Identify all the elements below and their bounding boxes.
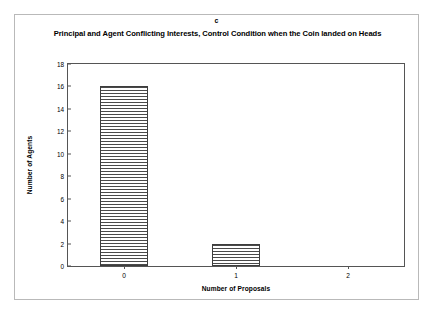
bar-0 (100, 86, 148, 266)
x-tick-mark (236, 266, 237, 269)
y-tick-label: 2 (60, 240, 64, 247)
y-tick-label: 0 (60, 263, 64, 270)
y-tick-label: 14 (57, 105, 64, 112)
bar-slot (68, 64, 180, 266)
y-tick-label: 4 (60, 218, 64, 225)
x-axis-title: Number of Proposals (67, 285, 405, 292)
x-tick-label: 2 (346, 272, 350, 279)
y-tick-label: 8 (60, 173, 64, 180)
y-tick-label: 18 (57, 61, 64, 68)
y-tick-label: 10 (57, 150, 64, 157)
plot-area: 024681012141618012 (67, 63, 405, 267)
y-tick-label: 6 (60, 195, 64, 202)
x-tick-label: 0 (122, 272, 126, 279)
bar-1 (212, 244, 260, 266)
bar-slot (180, 64, 292, 266)
y-tick-label: 12 (57, 128, 64, 135)
y-tick-label: 16 (57, 83, 64, 90)
panel-letter: c (15, 17, 418, 24)
x-tick-mark (348, 266, 349, 269)
x-tick-label: 1 (234, 272, 238, 279)
figure-frame: c Principal and Agent Conflicting Intere… (14, 14, 419, 300)
bar-slot (292, 64, 404, 266)
chart-title: Principal and Agent Conflicting Interest… (41, 28, 394, 39)
y-axis-title: Number of Agents (26, 136, 33, 195)
x-tick-mark (124, 266, 125, 269)
